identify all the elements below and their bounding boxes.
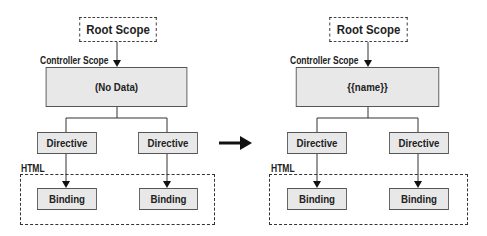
right-binding-1: Binding bbox=[287, 188, 347, 210]
left-binding-2: Binding bbox=[139, 188, 198, 210]
left-directive-2: Directive bbox=[138, 132, 198, 154]
right-html-label: HTML bbox=[271, 163, 295, 174]
left-controller-scope-label: Controller Scope bbox=[40, 55, 108, 66]
left-html-label: HTML bbox=[21, 163, 45, 174]
left-binding-1: Binding bbox=[37, 188, 97, 210]
left-root-scope-box: Root Scope bbox=[79, 17, 156, 42]
left-controller-box: (No Data) bbox=[46, 67, 188, 107]
right-binding-2: Binding bbox=[389, 188, 449, 210]
right-directive-1: Directive bbox=[287, 132, 347, 154]
right-arrow-icon bbox=[219, 136, 252, 150]
right-controller-scope-label: Controller Scope bbox=[290, 55, 358, 66]
left-directive-1: Directive bbox=[37, 132, 97, 154]
right-controller-box: {{name}} bbox=[296, 67, 439, 107]
right-root-scope-box: Root Scope bbox=[329, 17, 407, 42]
right-directive-2: Directive bbox=[389, 132, 449, 154]
